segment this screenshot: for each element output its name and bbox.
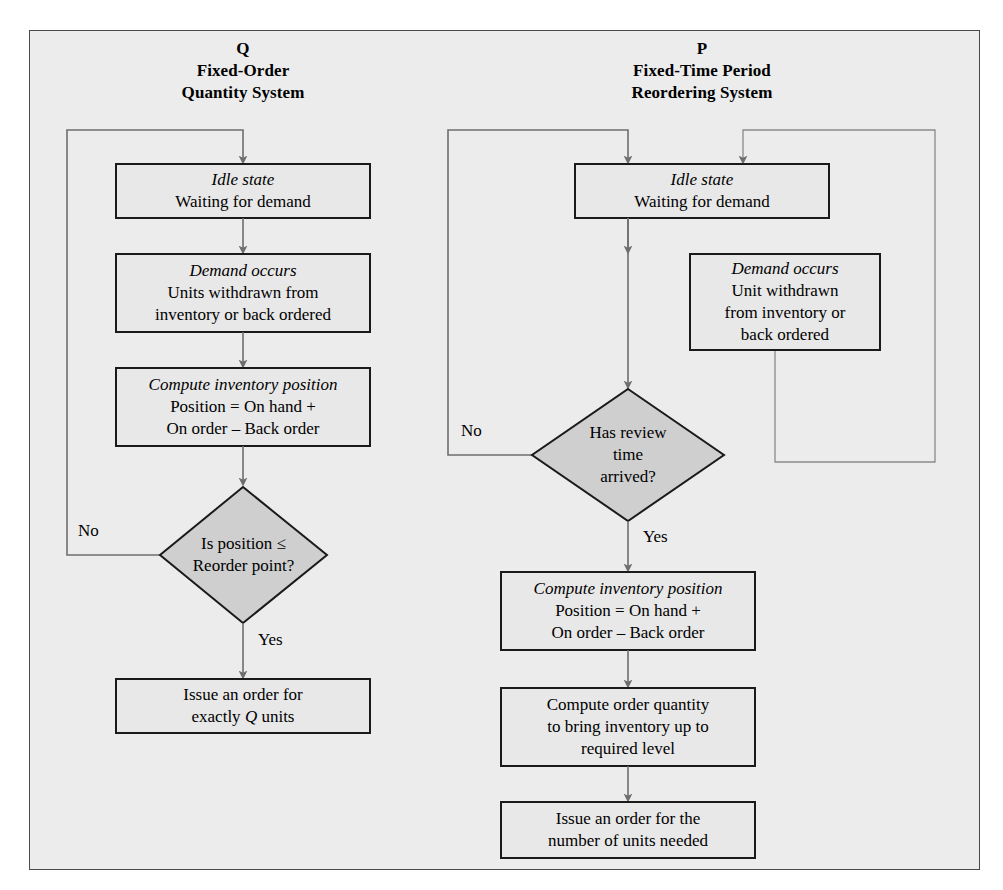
q-issue-box[interactable] — [116, 679, 370, 733]
p-decision-diamond[interactable] — [532, 389, 724, 521]
p-edge-label-no: No — [461, 421, 482, 441]
column-title-p-line2: Reordering System — [575, 82, 829, 104]
p-quantity-box[interactable] — [501, 688, 755, 766]
column-header-q: Q Fixed-Order Quantity System — [116, 38, 370, 103]
p-compute-box[interactable] — [501, 572, 755, 650]
flowchart-svg — [0, 0, 1003, 890]
column-title-p-line1: Fixed-Time Period — [575, 60, 829, 82]
column-symbol-p: P — [575, 38, 829, 60]
p-edge-label-yes: Yes — [643, 527, 668, 547]
q-demand-box[interactable] — [116, 254, 370, 332]
column-symbol-q: Q — [116, 38, 370, 60]
p-demand-box[interactable] — [690, 254, 880, 350]
figure-canvas: Q Fixed-Order Quantity System P Fixed-Ti… — [0, 0, 1003, 890]
column-title-q-line2: Quantity System — [116, 82, 370, 104]
p-idle-box[interactable] — [575, 164, 829, 218]
column-title-q-line1: Fixed-Order — [116, 60, 370, 82]
q-compute-box[interactable] — [116, 368, 370, 446]
p-issue-box[interactable] — [501, 802, 755, 858]
q-decision-diamond[interactable] — [160, 487, 327, 623]
q-edge-label-yes: Yes — [258, 630, 283, 650]
column-header-p: P Fixed-Time Period Reordering System — [575, 38, 829, 103]
q-edge-label-no: No — [78, 521, 99, 541]
q-idle-box[interactable] — [116, 164, 370, 218]
